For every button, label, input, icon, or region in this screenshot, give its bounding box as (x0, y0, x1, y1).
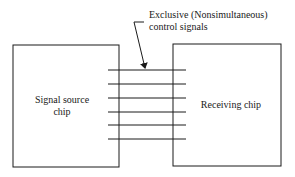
annotation-leader (134, 22, 145, 68)
signal-source-label-line2: chip (53, 106, 70, 117)
control-signal-lines (108, 70, 186, 139)
leader-arrow (134, 22, 145, 68)
chip-signal-diagram: Exclusive (Nonsimultaneous) control sign… (0, 0, 295, 177)
signal-source-label-line1: Signal source (35, 94, 90, 105)
receiving-chip-label: Receiving chip (201, 99, 261, 110)
annotation-line1: Exclusive (Nonsimultaneous) (149, 9, 268, 21)
annotation-line2: control signals (149, 21, 208, 32)
